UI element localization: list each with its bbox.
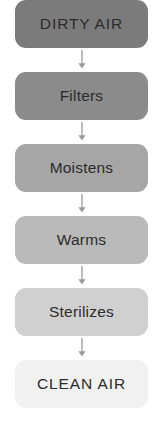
flow-step-warms[interactable]: Warms (15, 216, 148, 264)
arrow-down-icon (74, 336, 90, 360)
flow-step-dirty-air[interactable]: DIRTY AIR (15, 0, 148, 48)
arrow-down-icon (74, 264, 90, 288)
flow-step-label: Filters (60, 88, 104, 104)
flow-step-label: Sterilizes (49, 304, 114, 320)
flow-step-sterilizes[interactable]: Sterilizes (15, 288, 148, 336)
flow-step-filters[interactable]: Filters (15, 72, 148, 120)
flow-step-clean-air[interactable]: CLEAN AIR (15, 360, 148, 408)
flow-step-label: Moistens (50, 160, 114, 176)
arrow-down-icon (74, 120, 90, 144)
flow-step-label: CLEAN AIR (37, 376, 126, 392)
arrow-down-icon (74, 48, 90, 72)
process-flow-diagram: DIRTY AIR Filters Moistens Warms (0, 0, 163, 436)
flow-step-label: DIRTY AIR (40, 16, 123, 32)
flow-step-label: Warms (57, 232, 107, 248)
arrow-down-icon (74, 192, 90, 216)
flow-step-moistens[interactable]: Moistens (15, 144, 148, 192)
